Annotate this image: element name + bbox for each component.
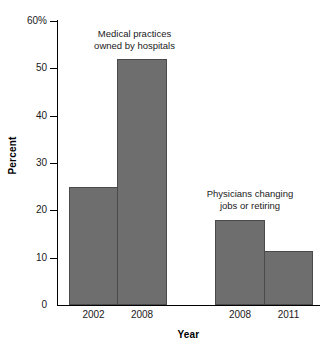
x-axis-title: Year [57,329,320,340]
annotation-medical-practices: Medical practices owned by hospitals [62,28,207,51]
x-axis-tick-label-2008-physicians: 2008 [215,309,265,321]
y-axis-tick-label-20-wrap: 20 [0,205,47,215]
bar-2008-medical-practices [117,59,167,305]
y-axis-tick-50 [50,68,57,69]
annotation-physicians-changing: Physicians changing jobs or retiring [182,188,318,211]
y-axis-tick-label-60-wrap: 60% [0,16,47,26]
y-axis-tick-40 [50,116,57,117]
bar-2008-physicians-changing [215,220,265,305]
y-axis-tick-label-60: 60% [3,16,47,26]
x-axis-line [57,305,320,306]
y-axis-tick-label-50-wrap: 50 [0,63,47,73]
plot-area: 60% 50 40 30 20 10 0 Percent [0,0,328,347]
y-axis-tick-label-10: 10 [3,253,47,263]
y-axis-tick-label-40: 40 [3,111,47,121]
y-axis-tick-label-0: 0 [3,300,47,310]
y-axis-tick-label-40-wrap: 40 [0,111,47,121]
y-axis-tick-10 [50,258,57,259]
y-axis-tick-label-10-wrap: 10 [0,253,47,263]
bar-chart: 60% 50 40 30 20 10 0 Percent [0,0,328,347]
y-axis-tick-label-20: 20 [3,205,47,215]
x-axis-tick-label-2011-physicians: 2011 [264,309,313,321]
y-axis-tick-label-50: 50 [3,63,47,73]
bar-2011-physicians-changing [264,251,313,305]
x-axis-tick-label-2008-medical: 2008 [117,309,167,321]
y-axis-tick-60 [50,21,57,22]
bar-2002-medical-practices [69,187,118,305]
x-axis-tick-label-2002-medical: 2002 [69,309,118,321]
y-axis-tick-20 [50,210,57,211]
y-axis-tick-label-0-wrap: 0 [0,300,47,310]
y-axis-title: Percent [7,126,18,186]
y-axis-line [57,20,58,306]
y-axis-tick-30 [50,163,57,164]
